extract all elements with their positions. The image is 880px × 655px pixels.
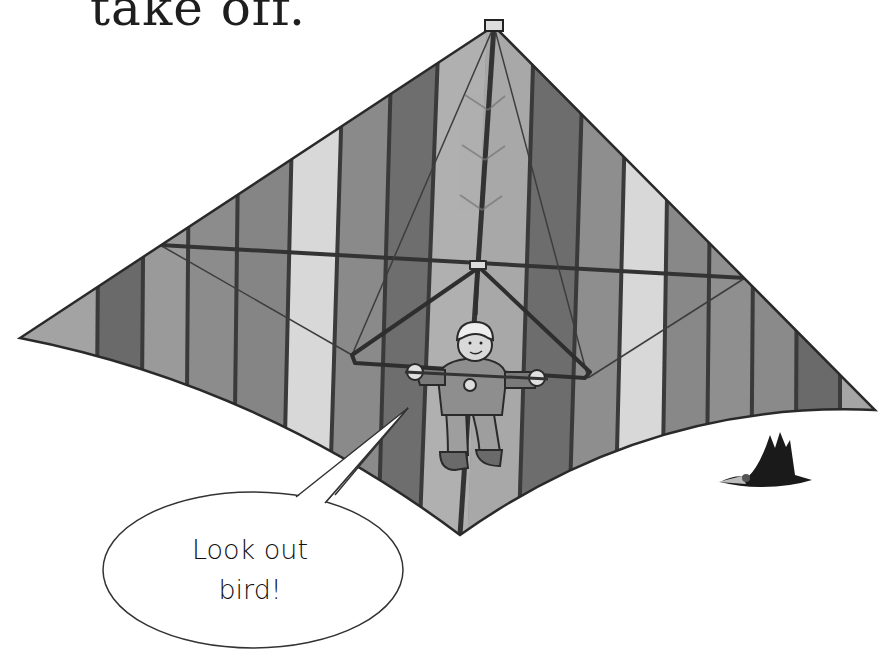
speech-line-2: bird! [120,570,380,610]
speech-line-1: Look out [120,530,380,570]
speech-bubble [103,408,408,648]
bird [718,432,812,487]
nose-plate [485,20,503,31]
speech-bubble-text: Look out bird! [120,530,380,610]
